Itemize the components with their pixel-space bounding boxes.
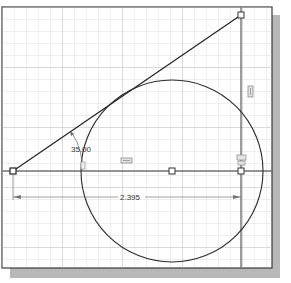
coincident-constraint-icon[interactable] — [237, 155, 246, 165]
sketch-canvas[interactable]: 35.00 2.395 — [0, 0, 291, 283]
length-dimension-label: 2.395 — [120, 193, 141, 202]
tangent-constraint-icon[interactable] — [81, 162, 85, 169]
top-endpoint[interactable] — [238, 12, 244, 18]
circle-center-point[interactable] — [169, 168, 175, 174]
angle-dimension-label: 35.00 — [71, 145, 92, 154]
left-endpoint[interactable] — [10, 168, 16, 174]
grid-major — [3, 8, 272, 268]
horizontal-constraint-icon[interactable] — [121, 158, 132, 163]
right-endpoint[interactable] — [238, 168, 244, 174]
vertical-constraint-icon[interactable] — [248, 86, 253, 97]
